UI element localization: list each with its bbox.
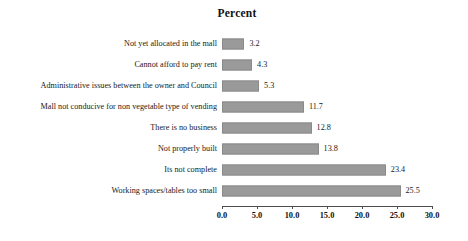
category-label: Working spaces/tables too small — [111, 186, 217, 196]
x-tick-label: 5.0 — [252, 211, 262, 220]
value-label: 13.8 — [324, 144, 338, 154]
value-label: 3.2 — [249, 39, 259, 49]
bar — [222, 80, 259, 91]
bar-row: Not properly built 13.8 — [0, 138, 468, 159]
x-tick-mark — [432, 206, 433, 209]
value-label: 5.3 — [264, 81, 274, 91]
x-tick-label: 15.0 — [320, 211, 335, 220]
bar-row: Administrative issues between the owner … — [0, 75, 468, 96]
x-tick-mark — [292, 206, 293, 209]
bar-row: Mall not conducive for non vegetable typ… — [0, 96, 468, 117]
bar-row: There is no business 12.8 — [0, 117, 468, 138]
bar-row: Not yet allocated in the mall 3.2 — [0, 33, 468, 54]
value-label: 11.7 — [309, 102, 323, 112]
x-tick-label: 20.0 — [355, 211, 370, 220]
bar — [222, 143, 319, 154]
x-tick-label: 10.0 — [285, 211, 300, 220]
bar — [222, 38, 244, 49]
x-tick-mark — [327, 206, 328, 209]
bar — [222, 101, 304, 112]
category-label: There is no business — [150, 123, 217, 133]
x-tick-mark — [397, 206, 398, 209]
plot-area: Not yet allocated in the mall 3.2 Cannot… — [0, 0, 468, 241]
value-label: 4.3 — [257, 60, 267, 70]
value-label: 25.5 — [406, 186, 420, 196]
x-tick-mark — [257, 206, 258, 209]
bar-chart: Percent Not yet allocated in the mall 3.… — [0, 0, 468, 241]
value-label: 23.4 — [391, 165, 405, 175]
value-label: 12.8 — [317, 123, 331, 133]
bar-row: Cannot afford to pay rent 4.3 — [0, 54, 468, 75]
x-tick-mark — [222, 206, 223, 209]
bar — [222, 185, 401, 196]
bar-row: Working spaces/tables too small 25.5 — [0, 180, 468, 201]
category-label: Not properly built — [158, 144, 217, 154]
x-tick-label: 25.0 — [390, 211, 405, 220]
bar — [222, 59, 252, 70]
x-tick-label: 0.0 — [217, 211, 227, 220]
bar-row: Its not complete 23.4 — [0, 159, 468, 180]
category-label: Its not complete — [164, 165, 217, 175]
category-label: Mall not conducive for non vegetable typ… — [41, 102, 217, 112]
category-label: Cannot afford to pay rent — [134, 60, 217, 70]
bar — [222, 122, 312, 133]
category-label: Administrative issues between the owner … — [41, 81, 217, 91]
category-label: Not yet allocated in the mall — [124, 39, 217, 49]
x-tick-label: 30.0 — [425, 211, 440, 220]
x-tick-mark — [362, 206, 363, 209]
bar — [222, 164, 386, 175]
